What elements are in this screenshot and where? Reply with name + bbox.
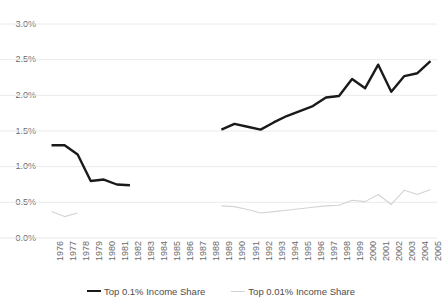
- series-line-1: [52, 212, 78, 217]
- x-tick-label: 1977: [69, 241, 78, 261]
- x-tick-label: 1979: [95, 241, 104, 261]
- x-tick-label: 1994: [291, 241, 300, 261]
- x-tick-label: 1996: [317, 241, 326, 261]
- x-tick-label: 1983: [147, 241, 156, 261]
- x-tick-label: 1990: [238, 241, 247, 261]
- x-tick-label: 1988: [212, 241, 221, 261]
- x-tick-label: 1986: [186, 241, 195, 261]
- x-tick-label: 1987: [199, 241, 208, 261]
- x-tick-label: 1982: [134, 241, 143, 261]
- x-tick-label: 2002: [395, 241, 404, 261]
- x-tick-label: 1981: [121, 241, 130, 261]
- legend-item-label: Top 0.1% Income Share: [104, 286, 205, 297]
- series-line-0: [221, 61, 430, 129]
- legend-item-top-0-1-percent[interactable]: Top 0.1% Income Share: [87, 286, 205, 297]
- x-tick-label: 2001: [382, 241, 391, 261]
- plot-area: [45, 24, 437, 238]
- legend-item-top-0-01-percent[interactable]: Top 0.01% Income Share: [231, 286, 355, 297]
- series-line-0: [52, 145, 130, 185]
- x-tick-label: 1985: [173, 241, 182, 261]
- x-tick-label: 1980: [108, 241, 117, 261]
- x-tick-label: 2005: [434, 241, 442, 261]
- legend-line-swatch-icon: [231, 291, 245, 292]
- series-lines: [45, 24, 437, 238]
- series-line-1: [221, 189, 430, 213]
- x-tick-label: 1998: [343, 241, 352, 261]
- x-tick-label: 2000: [369, 241, 378, 261]
- y-axis: 0.0%0.5%1.0%1.5%2.0%2.5%3.0%: [0, 0, 40, 302]
- x-tick-label: 1992: [265, 241, 274, 261]
- x-tick-label: 1995: [304, 241, 313, 261]
- x-tick-label: 1997: [330, 241, 339, 261]
- x-tick-label: 2004: [421, 241, 430, 261]
- chart-legend: Top 0.1% Income Share Top 0.01% Income S…: [0, 283, 442, 299]
- legend-item-label: Top 0.01% Income Share: [248, 286, 355, 297]
- legend-line-swatch-icon: [87, 290, 101, 292]
- x-tick-label: 1993: [278, 241, 287, 261]
- x-tick-label: 2003: [408, 241, 417, 261]
- x-tick-label: 1978: [82, 241, 91, 261]
- x-axis: 1976197719781979198019811982198319841985…: [45, 241, 437, 285]
- x-tick-label: 1989: [225, 241, 234, 261]
- income-share-line-chart: 0.0%0.5%1.0%1.5%2.0%2.5%3.0% 19761977197…: [0, 0, 442, 302]
- x-tick-label: 1991: [252, 241, 261, 261]
- x-tick-label: 1999: [356, 241, 365, 261]
- x-tick-label: 1984: [160, 241, 169, 261]
- x-tick-label: 1976: [56, 241, 65, 261]
